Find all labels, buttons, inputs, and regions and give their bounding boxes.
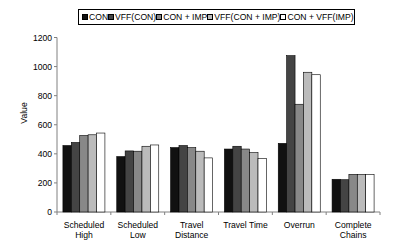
y-tick-label: 600 <box>22 120 52 130</box>
x-tick-label: TravelDistance <box>165 220 219 240</box>
y-tick-label: 1000 <box>22 62 52 72</box>
bar <box>366 174 374 212</box>
bar <box>88 135 96 212</box>
bar <box>258 158 266 212</box>
bar <box>204 158 212 212</box>
bar <box>150 145 158 212</box>
x-tick-label: Travel Time <box>219 220 273 240</box>
bar <box>357 174 365 212</box>
y-tick-label: 800 <box>22 91 52 101</box>
y-tick-label: 1200 <box>22 33 52 43</box>
bar <box>71 142 79 212</box>
bar <box>80 136 88 212</box>
x-tick-label: ScheduledHigh <box>57 220 111 240</box>
bar <box>295 104 303 212</box>
bar <box>142 146 150 212</box>
bar <box>196 151 204 212</box>
x-tick-label: Overrun <box>272 220 326 240</box>
plot-area: Value 020040060080010001200 ScheduledHig… <box>0 0 397 252</box>
x-tick-label: ScheduledLow <box>111 220 165 240</box>
bar <box>303 72 311 212</box>
bar <box>97 133 105 212</box>
bar <box>171 148 179 212</box>
bar <box>287 56 295 212</box>
bar <box>332 179 340 212</box>
bar <box>187 148 195 212</box>
x-tick-label: CompleteChains <box>326 220 380 240</box>
bar <box>250 153 258 212</box>
bar <box>278 143 286 212</box>
bar <box>233 146 241 212</box>
y-tick-label: 0 <box>22 207 52 217</box>
y-tick-label: 200 <box>22 178 52 188</box>
bar <box>241 149 249 212</box>
bar <box>134 151 142 212</box>
bar <box>179 146 187 212</box>
bar <box>117 157 125 212</box>
y-tick-label: 400 <box>22 149 52 159</box>
bar <box>63 146 71 212</box>
bar <box>340 180 348 212</box>
bar <box>224 149 232 212</box>
bar-chart <box>0 0 397 252</box>
bar <box>349 174 357 212</box>
bar <box>125 151 133 212</box>
bar <box>312 75 320 212</box>
